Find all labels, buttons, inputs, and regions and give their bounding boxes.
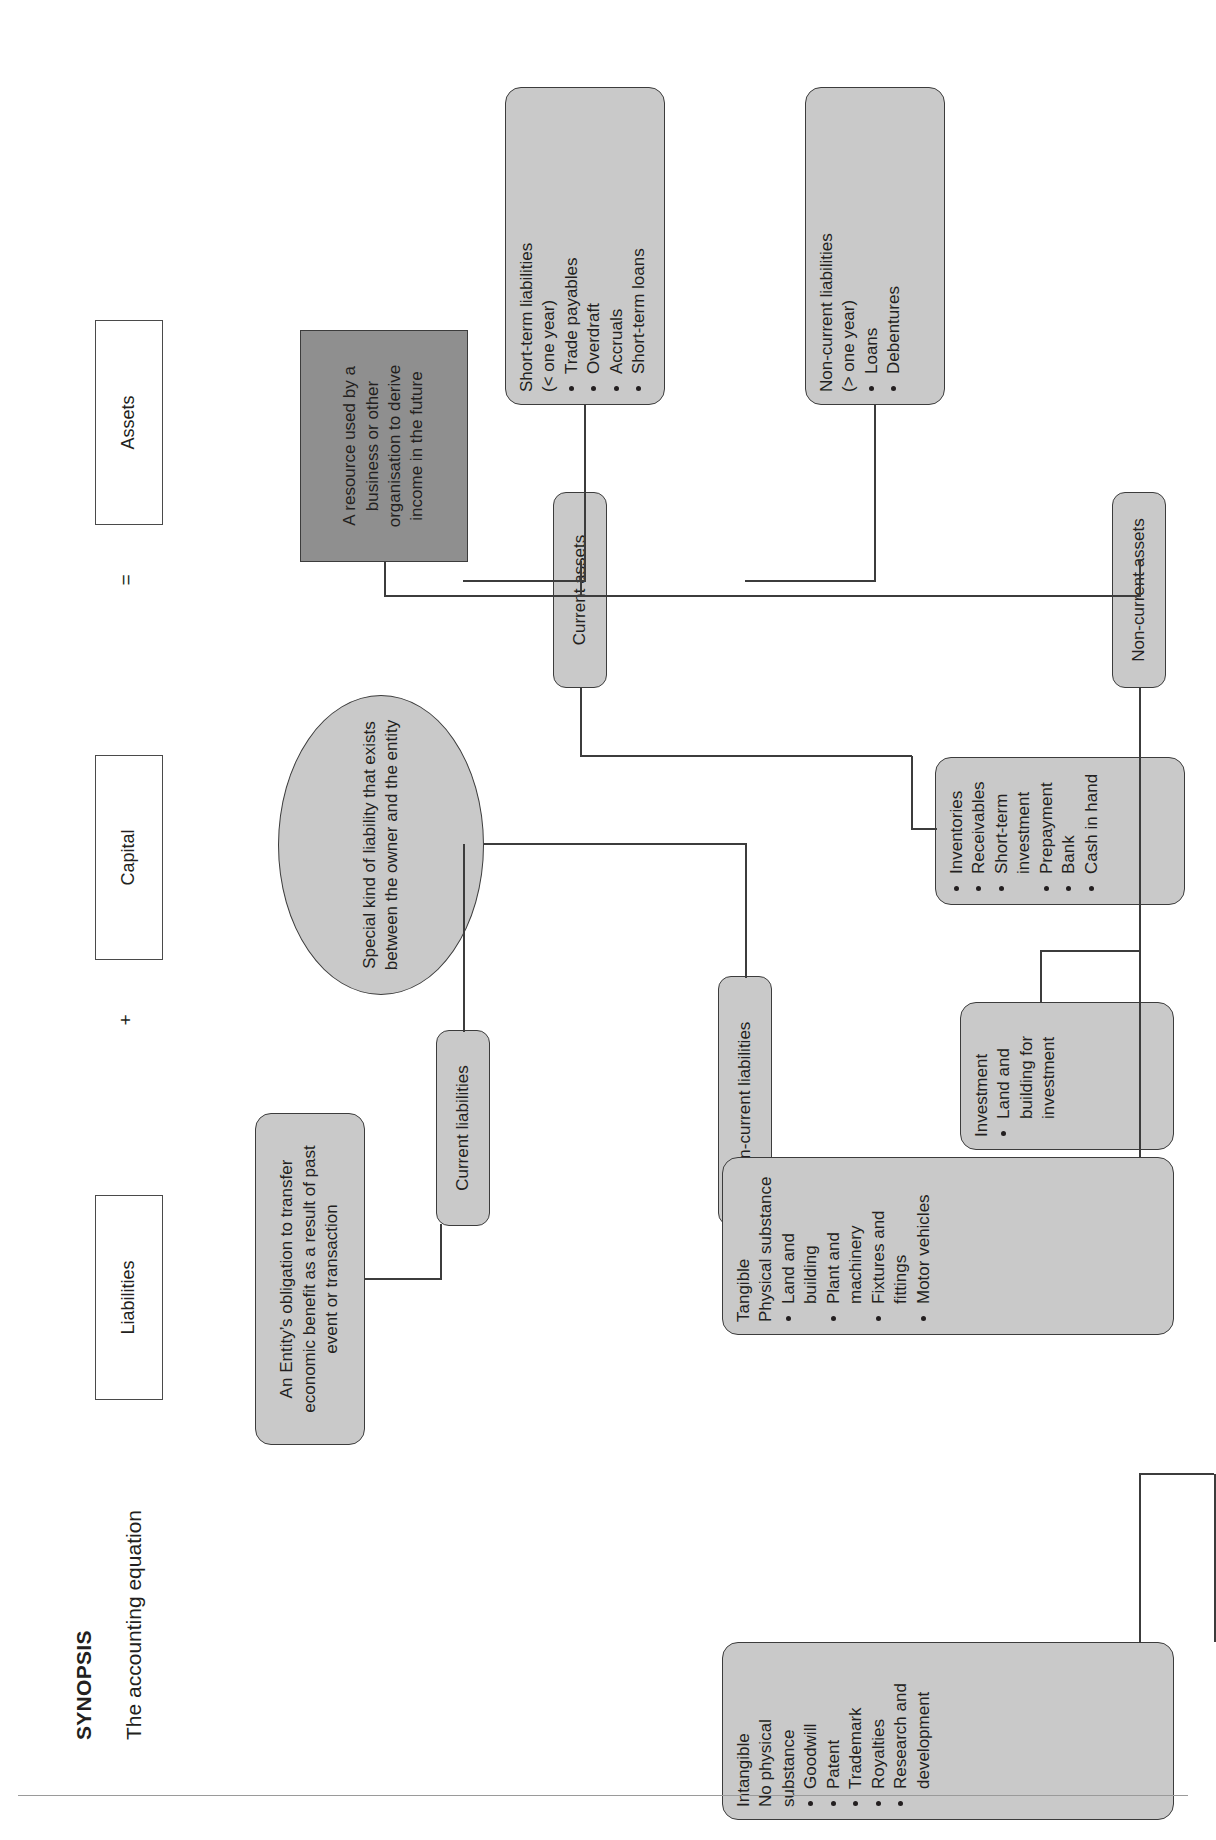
page-bottom-rule [18,1795,1188,1796]
investment-list: Land and building for investment [993,1015,1060,1137]
connector [1139,951,1141,1157]
connector [580,755,912,757]
connector [1139,756,1141,952]
connector [580,687,582,757]
equation-equals-sign: = [115,560,137,600]
connector [911,828,937,830]
short-term-liabilities-list: Trade payables Overdraft Accruals Short-… [561,100,651,392]
intangible-heading-1: Intangible [733,1655,755,1807]
equation-term-liabilities-label: Liabilities [117,1260,141,1334]
connector [580,561,582,597]
non-current-liabilities-heading-1: Non-current liabilities [816,100,838,392]
assets-definition-text: A resource used by a business or other o… [339,341,429,551]
branch-current-liabilities-label: Current liabilities [452,1065,474,1191]
connector [384,595,584,597]
equation-term-capital-label: Capital [117,829,141,885]
connector [484,843,746,845]
list-item: Plant and machinery [823,1170,868,1304]
capital-definition-text: Special kind of liability that exists be… [359,710,404,980]
non-current-liabilities-list: Loans Debentures [861,100,906,392]
connector [584,404,586,582]
connector [1139,1473,1214,1475]
equation-term-assets-label: Assets [117,395,141,449]
short-term-liabilities-heading-1: Short-term liabilities [516,100,538,392]
list-item: Accruals [606,100,628,374]
tangible-heading-1: Tangible [733,1170,755,1322]
connector [440,1224,442,1280]
current-assets-items-box: Inventories Receivables Short-term inves… [935,757,1185,905]
tangible-box: Tangible Physical substance Land and bui… [722,1157,1174,1335]
connector [1040,950,1042,1002]
list-item: Goodwill [800,1655,822,1789]
connector [463,844,465,1032]
list-item: Motor vehicles [913,1170,935,1304]
investment-heading: Investment [971,1015,993,1137]
connector [745,580,875,582]
page-subtitle: The accounting equation [122,1510,146,1740]
list-item: Debentures [883,100,905,374]
connector [365,1278,440,1280]
list-item: Receivables [968,770,990,874]
connector [1214,1474,1216,1642]
non-current-liabilities-heading-2: (> one year) [838,100,860,392]
list-item: Research and development [890,1655,935,1789]
connector [463,580,585,582]
list-item: Land and building [778,1170,823,1304]
connector [580,595,1140,597]
intangible-list: Goodwill Patent Trademark Royalties Rese… [800,1655,935,1807]
connector [384,561,386,597]
list-item: Patent [823,1655,845,1789]
equation-term-liabilities: Liabilities [95,1195,163,1400]
equation-term-capital: Capital [95,755,163,960]
list-item: Short-term loans [628,100,650,374]
page-title: SYNOPSIS [72,1630,96,1740]
connector [1040,950,1140,952]
assets-definition-box: A resource used by a business or other o… [300,330,468,562]
capital-definition-ellipse: Special kind of liability that exists be… [278,695,484,995]
list-item: Overdraft [583,100,605,374]
connector [1139,1474,1141,1642]
connector [874,404,876,582]
branch-current-liabilities: Current liabilities [436,1030,490,1226]
list-item: Trade payables [561,100,583,374]
list-item: Cash in hand [1081,770,1103,874]
connector [1139,687,1141,757]
list-item: Loans [861,100,883,374]
equation-plus-sign: + [115,1000,137,1040]
list-item: Royalties [868,1655,890,1789]
tangible-list: Land and building Plant and machinery Fi… [778,1170,935,1322]
connector [1139,561,1141,597]
non-current-liabilities-box: Non-current liabilities (> one year) Loa… [805,87,945,405]
equation-term-assets: Assets [95,320,163,525]
list-item: Short-term investment [991,770,1036,874]
list-item: Inventories [946,770,968,874]
short-term-liabilities-heading-2: (< one year) [538,100,560,392]
liabilities-definition-text: An Entity’s obligation to transfer econo… [276,1126,343,1432]
liabilities-definition-box: An Entity’s obligation to transfer econo… [255,1113,365,1445]
current-assets-list: Inventories Receivables Short-term inves… [946,770,1103,892]
tangible-heading-2: Physical substance [755,1170,777,1322]
list-item: Bank [1058,770,1080,874]
intangible-box: Intangible No physical substance Goodwil… [722,1642,1174,1820]
list-item: Trademark [845,1655,867,1789]
list-item: Fixtures and fittings [868,1170,913,1304]
list-item: Land and building for investment [993,1015,1060,1119]
list-item: Prepayment [1036,770,1058,874]
intangible-heading-2: No physical substance [755,1655,800,1807]
connector [745,843,747,978]
investment-box: Investment Land and building for investm… [960,1002,1174,1150]
short-term-liabilities-box: Short-term liabilities (< one year) Trad… [505,87,665,405]
connector [911,756,913,830]
